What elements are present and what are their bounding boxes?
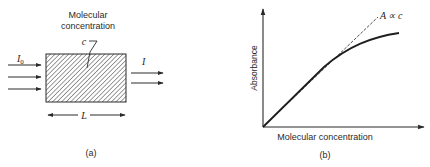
y-axis-label: Absorbance	[249, 45, 259, 91]
concentration-symbol: c	[82, 36, 87, 47]
figure-canvas: Molecular concentration c I0 I L (a) Abs…	[0, 0, 430, 167]
sample-cell	[46, 54, 126, 102]
sample-label-line2: concentration	[61, 21, 115, 31]
panel-b-caption: (b)	[320, 150, 331, 160]
x-axis-label: Molecular concentration	[277, 132, 373, 142]
panel-a-caption: (a)	[86, 148, 97, 158]
incident-intensity-label: I0	[16, 53, 24, 66]
panel-a: Molecular concentration c I0 I L (a)	[8, 10, 163, 158]
absorbance-curve	[263, 33, 399, 127]
transmitted-intensity-label: I	[141, 56, 146, 67]
path-length-label: L	[80, 110, 87, 121]
sample-label-line1: Molecular	[68, 10, 107, 20]
linear-annotation: A ∝ c	[379, 10, 403, 21]
panel-b: Absorbance Molecular concentration A ∝ c…	[249, 9, 424, 160]
